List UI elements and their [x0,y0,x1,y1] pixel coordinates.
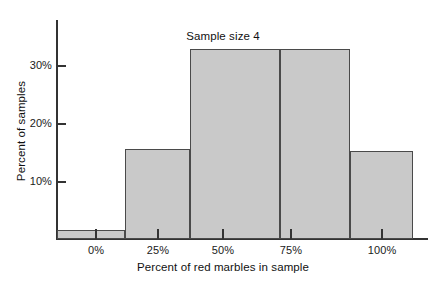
x-tick-label-0: 0% [88,244,104,256]
x-tick-mark-25 [157,229,159,239]
bar-50 [190,49,280,239]
y-tick-mark-20 [58,123,66,125]
x-tick-label-50: 50% [212,244,234,256]
y-tick-label-10: 10% [30,175,52,187]
y-tick-label-20: 20% [30,117,52,129]
x-axis-title: Percent of red marbles in sample [0,261,446,273]
x-tick-mark-100 [381,229,383,239]
chart-title: Sample size 4 [0,30,446,42]
y-axis-line [56,20,58,240]
bar-0 [57,230,125,239]
x-tick-mark-0 [95,229,97,239]
x-tick-label-100: 100% [368,244,397,256]
x-tick-label-75: 75% [280,244,302,256]
bar-100 [350,151,413,239]
y-tick-label-30: 30% [30,59,52,71]
chart-figure: Sample size 4 10% 20% 30% Percent of sam… [0,0,446,283]
y-axis-title: Percent of samples [15,66,27,196]
bar-75 [280,49,350,239]
x-tick-mark-50 [222,229,224,239]
y-tick-mark-30 [58,65,66,67]
y-tick-mark-10 [58,181,66,183]
bar-25 [125,149,190,239]
x-tick-mark-75 [290,229,292,239]
x-tick-label-25: 25% [147,244,169,256]
